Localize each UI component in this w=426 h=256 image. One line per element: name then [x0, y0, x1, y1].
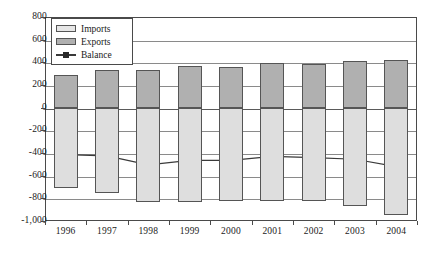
y-axis-tick-mark [41, 17, 45, 18]
bar-imports [54, 108, 78, 188]
bar-exports [343, 61, 367, 107]
legend-line-marker-balance-icon [56, 51, 76, 58]
bar-imports [260, 108, 284, 201]
legend-swatch-imports-icon [56, 25, 76, 32]
bar-imports [219, 108, 243, 201]
y-axis-tick-mark [41, 108, 45, 109]
x-axis-tick-mark [376, 221, 377, 225]
x-axis-tick-mark [128, 221, 129, 225]
x-axis-tick-label: 2004 [376, 226, 417, 236]
y-axis-tick-mark [41, 85, 45, 86]
bar-exports [54, 75, 78, 108]
x-axis-tick-label: 1996 [45, 226, 86, 236]
legend-item-imports: Imports [56, 22, 128, 35]
x-axis-tick-mark [169, 221, 170, 225]
legend-label-balance: Balance [81, 50, 112, 60]
bar-exports [302, 64, 326, 108]
x-axis-tick-mark [210, 221, 211, 225]
x-axis-tick-mark [45, 221, 46, 225]
x-axis-tick-label: 1999 [169, 226, 210, 236]
legend-label-imports: Imports [81, 24, 111, 34]
bar-exports [260, 63, 284, 107]
bar-imports [178, 108, 202, 202]
x-axis-tick-mark [86, 221, 87, 225]
bar-imports [343, 108, 367, 206]
x-axis-tick-mark [252, 221, 253, 225]
y-axis-tick-mark [41, 153, 45, 154]
chart-container: Imports Exports Balance 8006004002000-20… [0, 0, 426, 256]
y-axis-tick-mark [41, 62, 45, 63]
y-axis-tick-mark [41, 40, 45, 41]
bar-imports [302, 108, 326, 202]
bar-imports [95, 108, 119, 194]
bar-exports [178, 66, 202, 107]
x-axis-tick-label: 2002 [293, 226, 334, 236]
legend-swatch-exports-icon [56, 38, 76, 45]
x-axis-tick-label: 1998 [128, 226, 169, 236]
chart-legend: Imports Exports Balance [51, 18, 133, 65]
bar-exports [384, 60, 408, 108]
bar-imports [136, 108, 160, 203]
x-axis-tick-mark [417, 221, 418, 225]
y-axis-tick-mark [41, 198, 45, 199]
bar-exports [136, 70, 160, 107]
x-axis-tick-label: 2003 [334, 226, 375, 236]
bar-exports [219, 67, 243, 107]
x-axis-tick-label: 2000 [210, 226, 251, 236]
x-axis-tick-label: 2001 [252, 226, 293, 236]
y-axis-tick-mark [41, 130, 45, 131]
x-axis-tick-mark [293, 221, 294, 225]
x-axis-tick-mark [334, 221, 335, 225]
y-axis-tick-mark [41, 176, 45, 177]
legend-item-balance: Balance [56, 48, 128, 61]
legend-item-exports: Exports [56, 35, 128, 48]
bar-exports [95, 70, 119, 107]
x-axis-tick-label: 1997 [86, 226, 127, 236]
bar-imports [384, 108, 408, 215]
legend-label-exports: Exports [81, 37, 111, 47]
